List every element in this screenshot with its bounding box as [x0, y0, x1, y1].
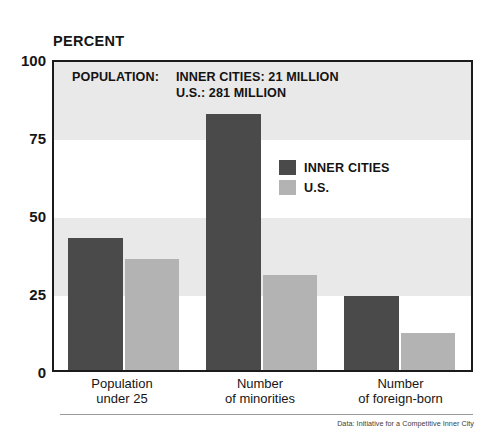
legend-swatch-inner-cities — [279, 160, 296, 175]
y-tick-25: 25 — [2, 287, 46, 302]
bar-us-population-under-25 — [125, 259, 179, 370]
population-callout: POPULATION:INNER CITIES: 21 MILLIONU.S.:… — [72, 69, 339, 102]
source-credit: Data: Initiative for a Competitive Inner… — [337, 419, 474, 428]
footer-divider — [60, 414, 473, 415]
y-tick-100: 100 — [2, 53, 46, 68]
legend-item-us: U.S. — [279, 180, 390, 195]
x-label-line2: under 25 — [96, 391, 147, 406]
plot-area: POPULATION:INNER CITIES: 21 MILLIONU.S.:… — [52, 60, 473, 372]
population-callout-title: POPULATION: — [72, 69, 176, 85]
bar-us-number-of-minorities — [263, 275, 317, 370]
x-label-line1: Number — [377, 376, 423, 391]
x-label-line1: Number — [237, 376, 283, 391]
x-label-number-of-foreign-born: Number of foreign-born — [328, 377, 473, 406]
bar-inner-cities-number-of-foreign-born — [344, 296, 399, 370]
x-label-line2: of foreign-born — [358, 391, 443, 406]
population-callout-line2: U.S.: 281 MILLION — [176, 86, 286, 100]
y-tick-50: 50 — [2, 209, 46, 224]
bar-us-number-of-foreign-born — [401, 333, 455, 370]
y-axis-title: PERCENT — [53, 33, 124, 49]
x-label-population-under-25: Population under 25 — [52, 377, 192, 406]
x-label-line2: of minorities — [225, 391, 295, 406]
y-tick-0: 0 — [2, 365, 46, 380]
chart-legend: INNER CITIES U.S. — [279, 160, 390, 200]
bar-inner-cities-number-of-minorities — [206, 114, 261, 370]
legend-label-us: U.S. — [304, 181, 329, 195]
legend-item-inner-cities: INNER CITIES — [279, 160, 390, 175]
chart-figure: PERCENT 100 75 50 25 0 POPULATION:INNER … — [0, 0, 501, 446]
x-label-line1: Population — [91, 376, 152, 391]
legend-swatch-us — [279, 180, 296, 195]
legend-label-inner-cities: INNER CITIES — [304, 161, 390, 175]
population-callout-line1: INNER CITIES: 21 MILLION — [176, 70, 339, 84]
bar-inner-cities-population-under-25 — [68, 238, 123, 370]
x-label-number-of-minorities: Number of minorities — [190, 377, 330, 406]
y-tick-75: 75 — [2, 131, 46, 146]
